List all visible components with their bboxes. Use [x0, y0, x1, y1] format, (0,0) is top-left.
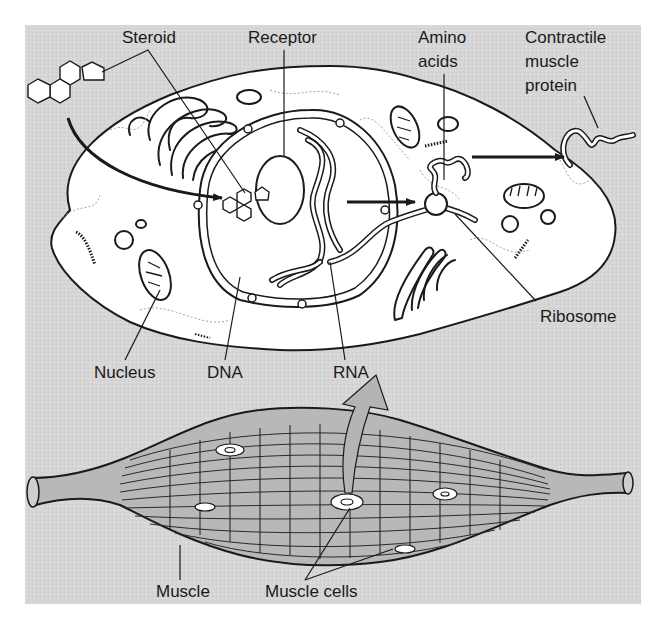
steroid-muscle-diagram: Steroid Receptor Amino acids Contractile…: [0, 0, 659, 623]
label-muscle: Muscle: [156, 582, 210, 601]
label-ribosome: Ribosome: [540, 307, 617, 326]
label-contractile-3: protein: [525, 76, 577, 95]
label-muscle-cells: Muscle cells: [265, 582, 358, 601]
label-contractile-2: muscle: [525, 52, 579, 71]
label-receptor: Receptor: [248, 28, 317, 47]
ribosome: [425, 193, 447, 215]
label-amino-acids-1: Amino: [418, 28, 466, 47]
label-contractile-1: Contractile: [525, 28, 606, 47]
tendon-left: [27, 477, 39, 507]
label-dna: DNA: [207, 363, 244, 382]
label-amino-acids-2: acids: [418, 52, 458, 71]
tendon-right: [623, 472, 633, 494]
label-rna: RNA: [333, 363, 370, 382]
label-steroid: Steroid: [122, 28, 176, 47]
label-nucleus: Nucleus: [94, 363, 155, 382]
